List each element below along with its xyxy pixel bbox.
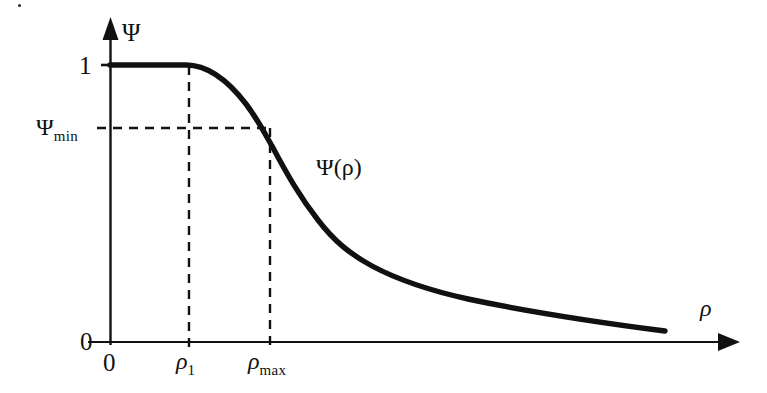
curve-label: Ψ(ρ) [316, 155, 362, 179]
x-axis-arrowhead [718, 333, 740, 351]
curve-psi-rho [110, 65, 665, 331]
psi-min-subscript: min [54, 128, 78, 144]
x-tick-label-rho-max: ρmax [248, 349, 286, 378]
y-tick-label-one: 1 [79, 53, 92, 78]
y-tick-label-zero: 0 [80, 329, 93, 354]
y-axis-label: Ψ [122, 20, 140, 45]
y-tick-label-psi-min: Ψmin [36, 115, 78, 144]
x-axis-label: ρ [700, 296, 712, 320]
plot-canvas [0, 0, 767, 393]
rho-max-base: ρ [248, 348, 260, 374]
rho-1-subscript: 1 [188, 362, 196, 378]
x-tick-label-zero: 0 [103, 350, 116, 375]
rho-1-base: ρ [176, 348, 188, 374]
psi-min-base: Ψ [36, 114, 54, 140]
psi-rho-plot: Ψ ρ 1 0 Ψmin 0 ρ1 ρmax Ψ(ρ) [0, 0, 767, 393]
y-axis-arrowhead [103, 17, 119, 40]
x-tick-label-rho-1: ρ1 [176, 349, 195, 378]
curve-label-base: Ψ(ρ) [316, 154, 362, 180]
rho-max-subscript: max [260, 362, 287, 378]
